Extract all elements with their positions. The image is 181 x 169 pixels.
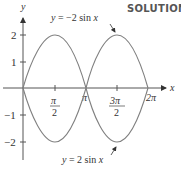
x-tick-pi-half-den: 2 [52, 107, 57, 118]
x-axis-label: x [169, 82, 175, 93]
y-tick-2: 2 [11, 29, 17, 41]
annotation-arrow [110, 24, 115, 32]
x-tick-3pi-half-num: 3π [109, 95, 121, 106]
y-tick-m2: −2 [4, 136, 16, 148]
y-tick-1: 1 [11, 56, 17, 68]
curve-neg-2-sin-x [23, 35, 148, 88]
x-tick-pi-half-num: π [51, 95, 57, 106]
y-tick-m1: −1 [4, 109, 16, 121]
solution-heading: SOLUTION [127, 3, 181, 14]
y-axis-label: y [20, 1, 26, 12]
annotation-arrow [111, 147, 116, 155]
annotation-neg-2-sin-x: y = −2 sin x [50, 12, 98, 23]
x-tick-3pi-half-den: 2 [114, 107, 119, 118]
annotation-2-sin-x: y = 2 sin x [61, 154, 104, 165]
x-tick-2pi: 2π [146, 92, 157, 103]
sine-graph: SOLUTION y x 2 1 −1 −2 π 2 π 3π 2 2π y =… [0, 0, 181, 169]
